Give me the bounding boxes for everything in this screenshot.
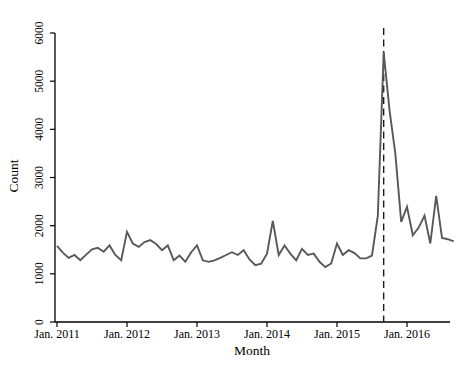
y-tick-label: 6000 — [33, 21, 45, 44]
chart-figure: 0100020003000400050006000Jan. 2011Jan. 2… — [0, 0, 467, 366]
x-tick-label: Jan. 2014 — [244, 327, 290, 341]
y-tick-label: 1000 — [33, 262, 45, 285]
series-line-monthly-count — [57, 52, 454, 267]
x-tick-label: Jan. 2016 — [384, 327, 430, 341]
y-axis-title: Count — [6, 159, 22, 192]
x-tick-label: Jan. 2015 — [314, 327, 360, 341]
x-axis-title: Month — [234, 343, 270, 359]
y-tick-label: 5000 — [33, 69, 45, 92]
y-tick-label: 4000 — [33, 118, 45, 141]
x-tick-label: Jan. 2012 — [104, 327, 150, 341]
chart-canvas: 0100020003000400050006000Jan. 2011Jan. 2… — [0, 0, 467, 366]
y-tick-label: 3000 — [33, 166, 45, 189]
x-tick-label: Jan. 2013 — [174, 327, 220, 341]
y-tick-label: 2000 — [33, 214, 45, 237]
x-tick-label: Jan. 2011 — [34, 327, 80, 341]
y-tick-label: 0 — [33, 319, 45, 325]
